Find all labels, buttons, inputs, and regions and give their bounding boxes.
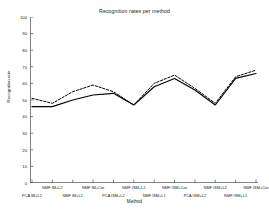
chart-title: Recognition rates per method (0, 8, 269, 14)
data-series-group (32, 70, 256, 107)
x-axis-tick-label: NMF ISM+L2 (122, 185, 145, 190)
y-axis-tick-label: 50 (5, 98, 27, 103)
x-axis-tick-label: NMF IM+L1 (63, 193, 83, 198)
y-axis-tick-label: 10 (5, 164, 27, 169)
x-axis-tick-label: NMF IM+Cor (82, 185, 104, 190)
x-axis-tick-label: NMF ISM+L1 (143, 193, 166, 198)
series-line-dashed (32, 70, 256, 105)
x-axis-tick-label: NMF ISM+Cor (162, 185, 187, 190)
y-axis-tick-label: 60 (5, 81, 27, 86)
x-axis-tick-label: NMF ISM+Cor (244, 185, 269, 190)
x-axis-tick-label: PCA ISM+L2 (102, 193, 124, 198)
x-axis-ticks (32, 180, 256, 183)
x-axis-tick-label: PCA ISM+L2 (184, 193, 206, 198)
y-axis-tick-label: 80 (5, 48, 27, 53)
x-axis-tick-label: PCA IM+L2 (22, 193, 42, 198)
x-axis-tick-label: NMF IM+L2 (42, 185, 62, 190)
x-axis-label: Method (0, 199, 269, 204)
x-axis-tick-label: NMF ISM+L2 (204, 185, 227, 190)
x-axis-tick-label: NMF ISM+L1 (224, 193, 247, 198)
series-line-solid (32, 73, 256, 106)
y-axis-tick-label: 20 (5, 148, 27, 153)
y-axis-tick-label: 90 (5, 31, 27, 36)
y-axis-ticks (31, 17, 34, 183)
axis-lines (30, 17, 258, 183)
y-axis-tick-label: 30 (5, 131, 27, 136)
plot-area (30, 17, 258, 183)
y-axis-tick-label: 0 (5, 181, 27, 186)
line-chart-svg (30, 17, 258, 183)
y-axis-tick-label: 100 (5, 15, 27, 20)
y-axis-tick-label: 70 (5, 65, 27, 70)
figure-canvas: Recognition rates per method Recognition… (0, 0, 269, 218)
y-axis-tick-label: 40 (5, 114, 27, 119)
